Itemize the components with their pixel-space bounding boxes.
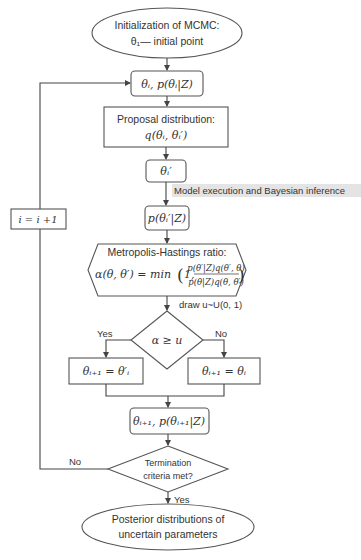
arrow-yes-branch xyxy=(106,340,131,357)
draw-u-note: draw u~U(0, 1) xyxy=(179,299,242,310)
posterior-candidate-node: p(θᵢ′|Z) xyxy=(145,206,189,230)
accept-box-node: θᵢ₊₁ = θ′ᵢ xyxy=(69,358,143,384)
termination-node: Termination criteria met? xyxy=(108,446,228,492)
model-execution-text: Model execution and Bayesian inference xyxy=(174,185,345,196)
start-line2: θ₁— initial point xyxy=(131,35,203,47)
proposal-node: Proposal distribution: q(θᵢ, θᵢ′) xyxy=(104,107,228,147)
model-execution-note: Model execution and Bayesian inference xyxy=(172,184,361,197)
increment-node: i = i +1 xyxy=(11,209,66,229)
reject-box-node: θᵢ₊₁ = θᵢ xyxy=(188,358,260,384)
end-line2: uncertain parameters xyxy=(118,528,217,540)
proposal-line2: q(θᵢ, θᵢ′) xyxy=(145,129,188,142)
proposal-line1: Proposal distribution: xyxy=(117,113,215,125)
termination-line2: criteria met? xyxy=(143,471,193,481)
candidate-node: θᵢ′ xyxy=(146,160,186,182)
mh-ratio-node: Metropolis-Hastings ratio: α(θ, θ′) = mi… xyxy=(88,244,246,296)
arrow-no-branch xyxy=(203,340,224,357)
yes-label-termination: Yes xyxy=(174,494,190,505)
mh-ratio-numerator: p(θ′|Z)q(θ′, θ) xyxy=(187,263,245,274)
start-node: Initialization of MCMC: θ₁— initial poin… xyxy=(92,8,242,58)
next-state-text: θᵢ₊₁, p(θᵢ₊₁|Z) xyxy=(133,415,205,429)
no-label-termination: No xyxy=(69,456,81,467)
mh-ratio-title: Metropolis-Hastings ratio: xyxy=(107,246,226,258)
current-state-node: θᵢ, p(θᵢ|Z) xyxy=(131,71,203,96)
termination-line1: Termination xyxy=(145,458,192,468)
candidate-text: θᵢ′ xyxy=(160,165,172,178)
current-state-text: θᵢ, p(θᵢ|Z) xyxy=(141,78,193,92)
next-state-node: θᵢ₊₁, p(θᵢ₊₁|Z) xyxy=(130,408,209,434)
merge-line xyxy=(106,384,224,396)
end-line1: Posterior distributions of xyxy=(112,513,225,525)
mh-ratio-paren-open: ( xyxy=(177,265,184,285)
accept-decision-text: α ≥ u xyxy=(152,334,183,347)
posterior-candidate-text: p(θᵢ′|Z) xyxy=(148,212,186,226)
start-line1: Initialization of MCMC: xyxy=(114,19,219,31)
flowchart: Initialization of MCMC: θ₁— initial poin… xyxy=(0,0,361,560)
end-node: Posterior distributions of uncertain par… xyxy=(82,504,254,550)
mh-ratio-denominator: p(θ|Z)q(θ, θ′) xyxy=(188,277,244,288)
reject-box-text: θᵢ₊₁ = θᵢ xyxy=(202,365,246,378)
yes-label-accept: Yes xyxy=(97,328,113,339)
mh-ratio-lhs: α(θ, θ′) = min xyxy=(95,268,171,281)
mh-ratio-paren-close: ) xyxy=(238,265,245,285)
accept-box-text: θᵢ₊₁ = θ′ᵢ xyxy=(83,365,130,378)
increment-text: i = i +1 xyxy=(18,214,57,225)
no-label-accept: No xyxy=(215,328,227,339)
